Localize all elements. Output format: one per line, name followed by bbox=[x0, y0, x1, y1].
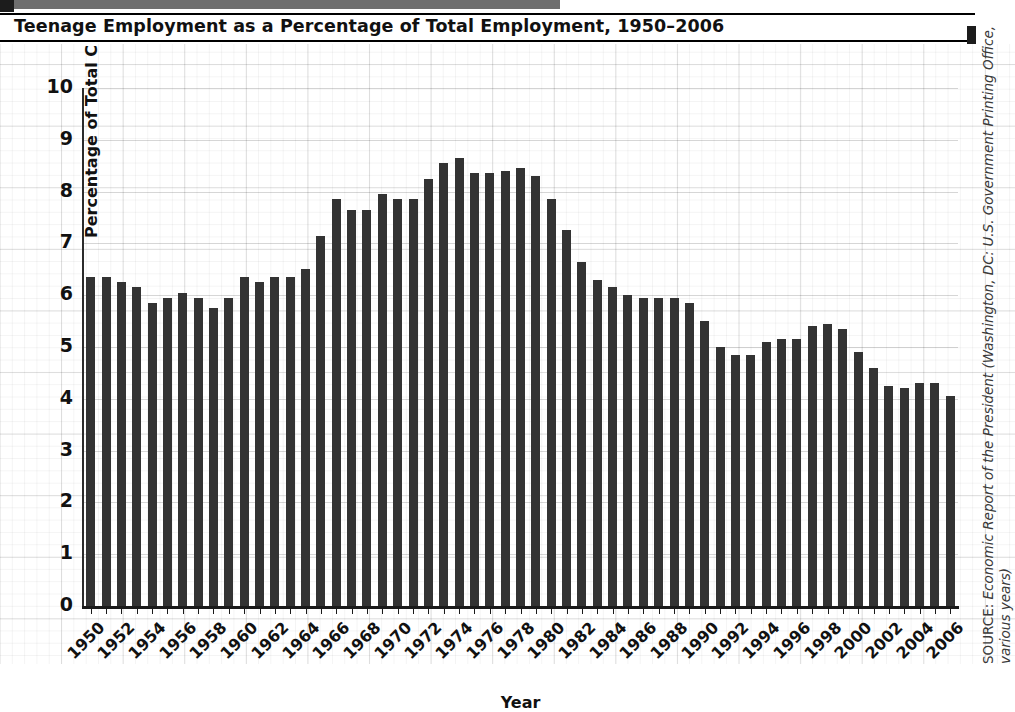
bar-1994 bbox=[762, 342, 771, 606]
bar-1953 bbox=[132, 287, 141, 606]
x-tick-1951 bbox=[106, 607, 107, 614]
x-tick-1969 bbox=[382, 607, 383, 614]
x-tick-1970 bbox=[398, 607, 399, 614]
x-tick-1992 bbox=[735, 607, 736, 614]
y-tick-label-0: 0 bbox=[43, 593, 73, 615]
x-tick-1958 bbox=[213, 607, 214, 614]
bar-1979 bbox=[531, 176, 540, 606]
x-tick-2003 bbox=[904, 607, 905, 614]
x-tick-1993 bbox=[751, 607, 752, 614]
bar-1998 bbox=[823, 324, 832, 606]
bar-1996 bbox=[792, 339, 801, 606]
bar-1967 bbox=[347, 210, 356, 606]
bar-1980 bbox=[547, 199, 556, 606]
x-tick-1978 bbox=[521, 607, 522, 614]
bar-1987 bbox=[654, 298, 663, 606]
bar-1999 bbox=[838, 329, 847, 606]
bar-1975 bbox=[470, 173, 479, 606]
x-axis-title: Year bbox=[83, 693, 958, 712]
x-tick-1950 bbox=[91, 607, 92, 614]
bar-1997 bbox=[808, 326, 817, 606]
x-tick-1985 bbox=[628, 607, 629, 614]
x-tick-1998 bbox=[828, 607, 829, 614]
bar-1970 bbox=[393, 199, 402, 606]
x-tick-2004 bbox=[920, 607, 921, 614]
y-tick-label-5: 5 bbox=[43, 334, 73, 356]
x-tick-1997 bbox=[812, 607, 813, 614]
x-tick-1996 bbox=[797, 607, 798, 614]
y-tick-label-2: 2 bbox=[43, 489, 73, 511]
x-tick-2005 bbox=[935, 607, 936, 614]
x-tick-1973 bbox=[444, 607, 445, 614]
bar-1984 bbox=[608, 287, 617, 606]
bar-1983 bbox=[593, 280, 602, 606]
bar-2003 bbox=[900, 388, 909, 606]
bar-1971 bbox=[409, 199, 418, 606]
x-tick-2006 bbox=[950, 607, 951, 614]
x-tick-2001 bbox=[874, 607, 875, 614]
source-text: Economic Report of the President (Washin… bbox=[980, 26, 1013, 664]
bar-2002 bbox=[884, 386, 893, 606]
bar-1985 bbox=[623, 295, 632, 606]
bar-1989 bbox=[685, 303, 694, 606]
bar-1950 bbox=[86, 277, 95, 606]
y-tick-label-4: 4 bbox=[43, 386, 73, 408]
y-tick-label-6: 6 bbox=[43, 282, 73, 304]
x-tick-1967 bbox=[352, 607, 353, 614]
bar-1951 bbox=[102, 277, 111, 606]
bar-1961 bbox=[255, 282, 264, 606]
x-tick-1981 bbox=[567, 607, 568, 614]
y-tick-label-7: 7 bbox=[43, 230, 73, 252]
x-tick-1984 bbox=[613, 607, 614, 614]
y-tick-label-3: 3 bbox=[43, 438, 73, 460]
x-tick-1995 bbox=[781, 607, 782, 614]
x-tick-1953 bbox=[137, 607, 138, 614]
bar-2006 bbox=[946, 396, 955, 606]
x-tick-1991 bbox=[720, 607, 721, 614]
x-tick-1968 bbox=[367, 607, 368, 614]
bar-1981 bbox=[562, 230, 571, 606]
bar-1960 bbox=[240, 277, 249, 606]
x-tick-2002 bbox=[889, 607, 890, 614]
bar-1962 bbox=[270, 277, 279, 606]
bar-1954 bbox=[148, 303, 157, 606]
x-tick-2000 bbox=[858, 607, 859, 614]
bar-2001 bbox=[869, 368, 878, 606]
bar-1966 bbox=[332, 199, 341, 606]
x-tick-1994 bbox=[766, 607, 767, 614]
x-tick-1977 bbox=[505, 607, 506, 614]
x-tick-1980 bbox=[551, 607, 552, 614]
x-tick-1989 bbox=[689, 607, 690, 614]
bar-2000 bbox=[854, 352, 863, 606]
x-tick-1999 bbox=[843, 607, 844, 614]
x-tick-1979 bbox=[536, 607, 537, 614]
bar-1974 bbox=[455, 158, 464, 606]
bar-series bbox=[83, 88, 958, 606]
bar-1964 bbox=[301, 269, 310, 606]
bar-1957 bbox=[194, 298, 203, 606]
bar-1959 bbox=[224, 298, 233, 606]
bar-1956 bbox=[178, 293, 187, 606]
y-tick-label-9: 9 bbox=[43, 127, 73, 149]
bar-1968 bbox=[362, 210, 371, 606]
bar-1986 bbox=[639, 298, 648, 606]
x-tick-1952 bbox=[121, 607, 122, 614]
y-tick-label-1: 1 bbox=[43, 541, 73, 563]
x-tick-1954 bbox=[152, 607, 153, 614]
x-tick-1960 bbox=[244, 607, 245, 614]
bar-1955 bbox=[163, 298, 172, 606]
header-black-cap bbox=[0, 0, 14, 12]
y-tick-label-8: 8 bbox=[43, 179, 73, 201]
x-tick-1962 bbox=[275, 607, 276, 614]
bar-1969 bbox=[378, 194, 387, 606]
bar-1963 bbox=[286, 277, 295, 606]
bar-1952 bbox=[117, 282, 126, 606]
x-tick-1966 bbox=[336, 607, 337, 614]
figure-header: Teenage Employment as a Percentage of To… bbox=[0, 0, 1015, 44]
bar-1978 bbox=[516, 168, 525, 606]
x-tick-1987 bbox=[659, 607, 660, 614]
bar-1988 bbox=[670, 298, 679, 606]
bar-1991 bbox=[716, 347, 725, 606]
bar-1958 bbox=[209, 308, 218, 606]
bar-1973 bbox=[439, 163, 448, 606]
